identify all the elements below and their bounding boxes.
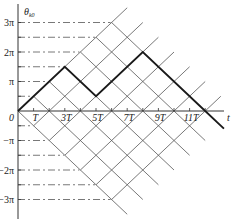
x-tick-label: 11T bbox=[184, 112, 200, 123]
y-axis-label: θk0 bbox=[24, 6, 35, 18]
x-tick-label: 9T bbox=[155, 112, 167, 123]
y-tick-label: −2π bbox=[0, 165, 14, 176]
y-tick-label: −3π bbox=[0, 194, 14, 205]
axis-labels: T3T5T7T9T11T03π2ππ−π−2π−3πθk0t bbox=[0, 6, 230, 205]
grid-line bbox=[205, 96, 221, 111]
grid-line bbox=[18, 111, 127, 214]
x-axis-label: t bbox=[227, 112, 230, 123]
x-tick-label: 5T bbox=[92, 112, 104, 123]
highlighted-path-tail bbox=[205, 111, 224, 129]
y-tick-label: −π bbox=[3, 135, 14, 146]
grid-line bbox=[96, 37, 174, 111]
y-tick-label: 3π bbox=[4, 17, 14, 28]
x-tick-label: 3T bbox=[60, 112, 73, 123]
grid-line bbox=[34, 96, 50, 111]
y-tick-label: π bbox=[9, 76, 14, 87]
y-tick-label: 2π bbox=[4, 47, 14, 58]
x-tick-label: 7T bbox=[123, 112, 135, 123]
grid-line bbox=[65, 111, 112, 155]
phase-trellis-diagram: T3T5T7T9T11T03π2ππ−π−2π−3πθk0t bbox=[0, 0, 235, 223]
origin-label: 0 bbox=[9, 112, 14, 123]
highlighted-phase-path bbox=[18, 52, 205, 111]
grid-line bbox=[143, 111, 190, 155]
